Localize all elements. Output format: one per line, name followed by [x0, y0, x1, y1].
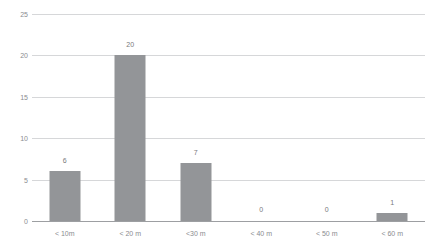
bar-slot: 0 — [229, 14, 295, 221]
y-tick-label: 20 — [6, 52, 28, 59]
x-tick-label: < 10m — [32, 229, 98, 238]
bar-slot: 6 — [32, 14, 98, 221]
x-axis: < 10m < 20 m <30 m < 40 m < 50 m < 60 m — [32, 229, 425, 241]
bar[interactable] — [377, 213, 408, 221]
bar[interactable] — [115, 55, 146, 221]
y-tick-label: 25 — [6, 11, 28, 18]
bar-slot: 1 — [360, 14, 426, 221]
bar-value-label: 6 — [63, 157, 67, 164]
y-axis: 25 20 15 10 5 0 — [0, 14, 28, 221]
bar-chart: 25 20 15 10 5 0 6 20 7 0 0 — [0, 0, 432, 246]
plot-area: 6 20 7 0 0 1 — [32, 14, 425, 221]
bar-slot: 20 — [98, 14, 164, 221]
bar[interactable] — [180, 163, 211, 221]
bar-value-label: 0 — [325, 206, 329, 213]
x-tick-label: < 50 m — [294, 229, 360, 238]
x-tick-label: < 60 m — [360, 229, 426, 238]
x-tick-label: < 40 m — [229, 229, 295, 238]
bar-value-label: 20 — [126, 41, 134, 48]
bar-value-label: 0 — [259, 206, 263, 213]
x-tick-label: <30 m — [163, 229, 229, 238]
y-tick-label: 0 — [6, 218, 28, 225]
x-tick-label: < 20 m — [98, 229, 164, 238]
bar[interactable] — [49, 171, 80, 221]
y-tick-label: 5 — [6, 177, 28, 184]
bar-slot: 7 — [163, 14, 229, 221]
x-axis-line — [32, 221, 425, 222]
bar-value-label: 7 — [194, 149, 198, 156]
chart-title — [0, 0, 432, 4]
bar-value-label: 1 — [390, 199, 394, 206]
bar-slot: 0 — [294, 14, 360, 221]
y-tick-label: 15 — [6, 94, 28, 101]
y-tick-label: 10 — [6, 135, 28, 142]
